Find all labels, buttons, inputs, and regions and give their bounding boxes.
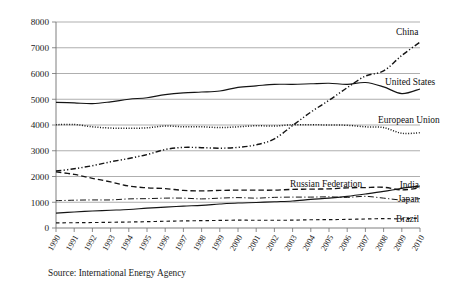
series-label-china: China bbox=[396, 27, 419, 37]
series-label-india: India bbox=[400, 180, 420, 190]
y-axis-tick-label: 8000 bbox=[31, 17, 50, 27]
y-axis-tick-label: 2000 bbox=[31, 172, 50, 182]
series-label-united-states: United States bbox=[385, 77, 436, 87]
y-axis-tick-label: 0 bbox=[44, 223, 49, 233]
y-axis-tick-label: 4000 bbox=[31, 120, 50, 130]
y-axis-tick-label: 5000 bbox=[31, 95, 50, 105]
y-axis-tick-labels: 010002000300040005000600070008000 bbox=[31, 17, 50, 233]
series-label-japan: Japan bbox=[398, 194, 420, 204]
y-axis-tick-label: 3000 bbox=[31, 146, 50, 156]
y-axis-tick-label: 7000 bbox=[31, 43, 50, 53]
source-note: Source: International Energy Agency bbox=[48, 268, 186, 278]
series-label-brazil: Brazil bbox=[396, 214, 419, 224]
series-label-european-union: European Union bbox=[378, 115, 440, 125]
y-axis-tick-label: 1000 bbox=[31, 198, 50, 208]
y-axis-tick-label: 6000 bbox=[31, 69, 50, 79]
chart-canvas: 010002000300040005000600070008000 199019… bbox=[0, 0, 463, 295]
line-chart-figure: 010002000300040005000600070008000 199019… bbox=[0, 0, 463, 295]
series-label-russian-federation: Russian Federation bbox=[290, 179, 362, 189]
